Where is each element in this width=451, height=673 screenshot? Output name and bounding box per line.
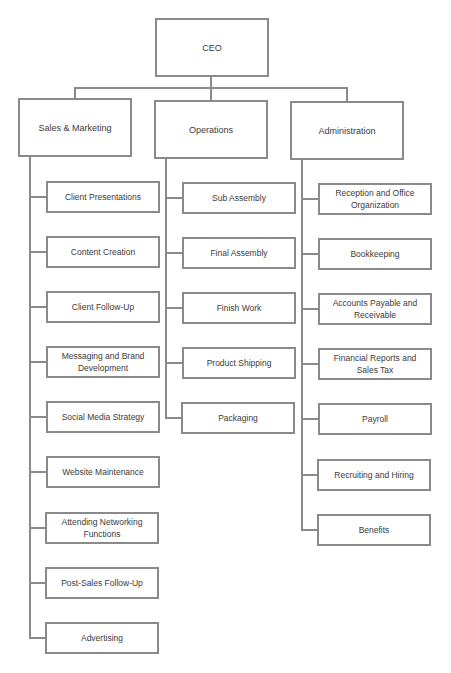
connector-sales-branch (29, 527, 46, 529)
ceo-box: CEO (155, 18, 269, 77)
connector-ops-up (210, 87, 212, 101)
department-sales-marketing: Sales & Marketing (18, 98, 132, 157)
connector-sales-branch (29, 361, 46, 363)
connector-ops-branch (165, 307, 182, 309)
role-box: Advertising (45, 622, 159, 654)
role-box: Sub Assembly (182, 182, 296, 214)
connector-ops-branch (165, 197, 182, 199)
connector-sales-branch (29, 471, 46, 473)
role-box: Attending Networking Functions (45, 512, 159, 544)
connector-sales-branch (29, 416, 46, 418)
connector-admin-branch (301, 363, 318, 365)
role-box: Website Maintenance (46, 456, 160, 488)
role-box: Recruiting and Hiring (317, 459, 431, 491)
connector-admin-up (346, 87, 348, 102)
connector-sales-branch (29, 251, 46, 253)
role-box: Final Assembly (182, 237, 296, 269)
role-box: Reception and Office Organization (318, 183, 432, 215)
connector-ops-branch (165, 252, 182, 254)
connector-admin-branch (301, 529, 318, 531)
connector-admin-branch (301, 198, 318, 200)
role-box: Client Presentations (46, 181, 160, 213)
connector-admin-branch (301, 418, 318, 420)
role-box: Product Shipping (182, 347, 296, 379)
role-box: Client Follow-Up (46, 291, 160, 323)
role-box: Social Media Strategy (46, 401, 160, 433)
connector-sales-branch (29, 637, 46, 639)
connector-ops-branch (165, 362, 182, 364)
connector-admin-branch (301, 474, 318, 476)
connector-admin-branch (301, 253, 318, 255)
connector-sales-spine (29, 156, 31, 639)
role-box: Packaging (181, 402, 295, 434)
connector-admin-branch (301, 308, 318, 310)
role-box: Financial Reports and Sales Tax (318, 348, 432, 380)
role-box: Bookkeeping (318, 238, 432, 270)
org-chart: CEO Sales & Marketing Operations Adminis… (0, 0, 451, 673)
connector-ops-branch (165, 417, 182, 419)
role-box: Accounts Payable and Receivable (318, 293, 432, 325)
connector-sales-branch (29, 306, 46, 308)
connector-sales-branch (29, 582, 46, 584)
role-box: Benefits (317, 514, 431, 546)
role-box: Content Creation (46, 236, 160, 268)
role-box: Messaging and Brand Development (46, 346, 160, 378)
department-operations: Operations (154, 100, 268, 159)
department-administration: Administration (290, 101, 404, 160)
role-box: Post-Sales Follow-Up (45, 567, 159, 599)
role-box: Payroll (318, 403, 432, 435)
role-box: Finish Work (182, 292, 296, 324)
connector-sales-branch (29, 196, 46, 198)
